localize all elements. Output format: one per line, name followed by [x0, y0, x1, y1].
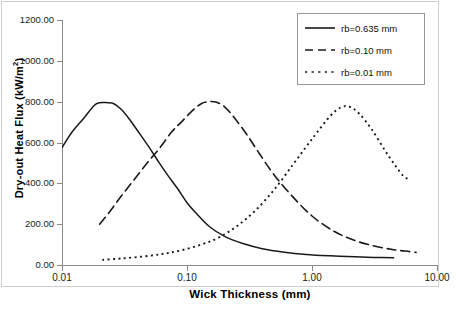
series-line-dotted — [102, 106, 409, 260]
y-axis-tick-label: 400.00 — [0, 177, 54, 188]
x-axis-tick — [62, 266, 63, 271]
y-axis-title: Dry-out Heat Flux (kW/m2) — [13, 13, 25, 243]
legend-item-0: rb=0.635 mm — [304, 19, 422, 37]
legend-swatch-dotted-icon — [304, 67, 336, 77]
x-axis-title: Wick Thickness (mm) — [62, 288, 438, 300]
legend-label-2: rb=0.01 mm — [341, 67, 392, 78]
y-axis-tick-label: 800.00 — [0, 96, 54, 107]
x-axis-tick-label: 0.10 — [177, 272, 196, 283]
y-axis-tick-label: 1000.00 — [0, 55, 54, 66]
legend-label-1: rb=0.10 mm — [341, 45, 392, 56]
x-axis-line — [62, 265, 438, 266]
series-line-dashed — [100, 101, 416, 252]
y-axis-tick-label: 600.00 — [0, 137, 54, 148]
legend-item-2: rb=0.01 mm — [304, 63, 422, 81]
x-axis-tick-label: 1.00 — [302, 272, 321, 283]
legend-swatch-dashed-icon — [304, 45, 336, 55]
y-axis-tick-label: 200.00 — [0, 218, 54, 229]
x-axis-tick-label: 0.01 — [52, 272, 71, 283]
x-axis-tick — [312, 266, 313, 271]
x-axis-tick — [187, 266, 188, 271]
chart-figure: Dry-out Heat Flux (kW/m2) 0.00200.00400.… — [0, 0, 456, 312]
y-axis-tick-label: 1200.00 — [0, 14, 54, 25]
series-line-solid — [62, 102, 394, 257]
legend-item-1: rb=0.10 mm — [304, 41, 422, 59]
legend-box: rb=0.635 mm rb=0.10 mm rb=0.01 mm — [297, 13, 425, 85]
x-axis-tick-label: 10.00 — [424, 272, 449, 283]
x-axis-tick — [437, 266, 438, 271]
y-axis-tick-label: 0.00 — [0, 259, 54, 270]
legend-swatch-solid-icon — [304, 23, 336, 33]
legend-label-0: rb=0.635 mm — [341, 23, 397, 34]
